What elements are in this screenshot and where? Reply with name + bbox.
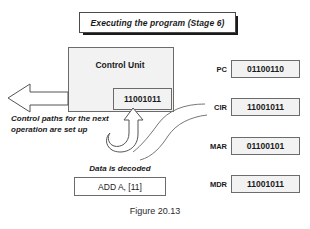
register-label-cir: CIR (203, 103, 227, 112)
decoded-instruction-value: ADD A, [11] (98, 182, 142, 192)
register-row-mdr: MDR 11001011 (203, 175, 300, 193)
register-box-mar: 01100101 (231, 137, 300, 155)
register-value-mar: 01100101 (247, 141, 284, 151)
control-unit-instruction-value: 11001011 (124, 94, 161, 104)
control-unit-label: Control Unit (68, 60, 172, 70)
register-row-cir: CIR 11001011 (203, 98, 300, 116)
control-paths-annotation: Control paths for the next operation are… (11, 114, 115, 135)
figure-caption: Figure 20.13 (0, 206, 310, 216)
register-box-pc: 01100110 (231, 60, 300, 78)
figure-canvas: Executing the program (Stage 6) Control … (0, 0, 310, 229)
left-block-arrow-icon (8, 84, 68, 112)
register-label-mdr: MDR (203, 180, 227, 189)
register-label-mar: MAR (203, 142, 227, 151)
title-banner: Executing the program (Stage 6) (79, 12, 236, 33)
register-value-cir: 11001011 (247, 102, 284, 112)
register-value-pc: 01100110 (247, 64, 284, 74)
register-box-cir: 11001011 (231, 98, 300, 116)
control-unit-instruction-box: 11001011 (113, 88, 172, 110)
register-label-pc: PC (203, 65, 227, 74)
curved-arrow-icon (140, 115, 207, 160)
data-decoded-label: Data is decoded (65, 164, 175, 173)
register-row-mar: MAR 01100101 (203, 137, 300, 155)
register-row-pc: PC 01100110 (203, 60, 300, 78)
register-box-mdr: 11001011 (231, 175, 300, 193)
title-banner-text: Executing the program (Stage 6) (91, 18, 225, 28)
register-value-mdr: 11001011 (247, 179, 284, 189)
decoded-instruction-box: ADD A, [11] (74, 177, 166, 196)
